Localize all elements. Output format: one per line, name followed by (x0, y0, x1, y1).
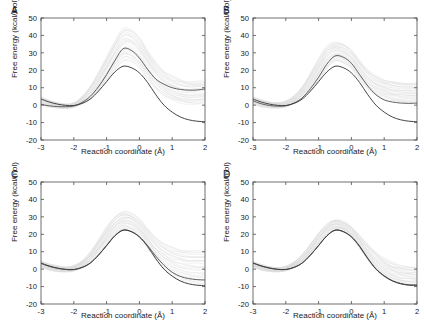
svg-text:0: 0 (33, 265, 37, 274)
svg-text:-10: -10 (26, 118, 37, 127)
svg-text:-10: -10 (238, 118, 249, 127)
svg-text:0: 0 (137, 307, 141, 316)
svg-text:-1: -1 (103, 143, 110, 152)
svg-text:-1: -1 (315, 307, 322, 316)
svg-text:2: 2 (203, 143, 207, 152)
svg-text:0: 0 (349, 307, 353, 316)
svg-text:1: 1 (382, 307, 386, 316)
svg-text:50: 50 (241, 178, 249, 187)
svg-text:2: 2 (415, 307, 419, 316)
svg-text:1: 1 (170, 143, 174, 152)
svg-text:-20: -20 (26, 136, 37, 145)
svg-text:-1: -1 (315, 143, 322, 152)
svg-text:-20: -20 (26, 300, 37, 309)
svg-text:40: 40 (241, 195, 249, 204)
svg-text:0: 0 (349, 143, 353, 152)
svg-text:20: 20 (241, 66, 249, 75)
svg-text:40: 40 (29, 31, 37, 40)
svg-text:-10: -10 (238, 282, 249, 291)
panel-a: A Free energy (kcal/mol) Reaction coordi… (0, 0, 212, 164)
svg-text:20: 20 (241, 230, 249, 239)
svg-text:-10: -10 (26, 282, 37, 291)
svg-text:2: 2 (415, 143, 419, 152)
svg-text:-3: -3 (38, 143, 45, 152)
svg-text:30: 30 (241, 49, 249, 58)
svg-text:50: 50 (29, 14, 37, 23)
svg-text:-1: -1 (103, 307, 110, 316)
svg-text:50: 50 (29, 178, 37, 187)
svg-text:-3: -3 (250, 143, 257, 152)
svg-text:40: 40 (241, 31, 249, 40)
svg-text:-20: -20 (238, 136, 249, 145)
svg-text:40: 40 (29, 195, 37, 204)
svg-text:30: 30 (29, 213, 37, 222)
svg-text:-2: -2 (70, 307, 77, 316)
plot-svg-b: 50403020100-10-20-3-2-1012 (212, 0, 424, 164)
svg-text:10: 10 (241, 247, 249, 256)
svg-text:-2: -2 (282, 143, 289, 152)
svg-text:-3: -3 (250, 307, 257, 316)
svg-text:2: 2 (203, 307, 207, 316)
svg-text:10: 10 (29, 247, 37, 256)
svg-text:0: 0 (33, 101, 37, 110)
figure-panel-grid: A Free energy (kcal/mol) Reaction coordi… (0, 0, 424, 328)
svg-text:-20: -20 (238, 300, 249, 309)
plot-svg-a: 50403020100-10-20-3-2-1012 (0, 0, 212, 164)
svg-text:0: 0 (245, 101, 249, 110)
svg-text:0: 0 (137, 143, 141, 152)
svg-text:30: 30 (241, 213, 249, 222)
svg-text:10: 10 (29, 83, 37, 92)
svg-text:1: 1 (382, 143, 386, 152)
panel-d: D Free energy (kcal/mol) Reaction coordi… (212, 164, 424, 328)
svg-text:-2: -2 (282, 307, 289, 316)
svg-text:-3: -3 (38, 307, 45, 316)
svg-text:20: 20 (29, 230, 37, 239)
svg-text:10: 10 (241, 83, 249, 92)
svg-text:1: 1 (170, 307, 174, 316)
svg-text:-2: -2 (70, 143, 77, 152)
panel-c: C Free energy (kcal/mol) Reaction coordi… (0, 164, 212, 328)
svg-text:30: 30 (29, 49, 37, 58)
panel-b: B Free energy (kcal/mol) Reaction coordi… (212, 0, 424, 164)
svg-text:0: 0 (245, 265, 249, 274)
svg-text:50: 50 (241, 14, 249, 23)
plot-svg-d: 50403020100-10-20-3-2-1012 (212, 164, 424, 328)
svg-text:20: 20 (29, 66, 37, 75)
plot-svg-c: 50403020100-10-20-3-2-1012 (0, 164, 212, 328)
